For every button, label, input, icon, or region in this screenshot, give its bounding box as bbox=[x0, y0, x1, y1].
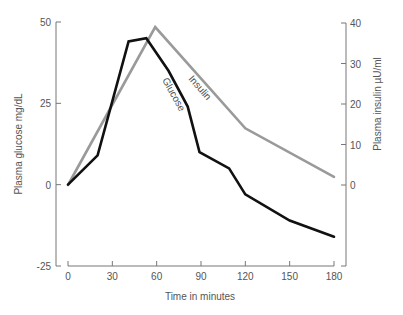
glucose-insulin-chart: 50250-25 403020100 0306090120150180 Time… bbox=[0, 0, 403, 315]
left-tick-label: 0 bbox=[45, 180, 51, 191]
x-tick-label: 120 bbox=[237, 271, 254, 282]
right-tick-label: 0 bbox=[350, 180, 356, 191]
left-axis-label: Plasma glucose mg/dL bbox=[13, 93, 24, 195]
right-ticks: 403020100 bbox=[341, 18, 362, 191]
right-tick-label: 10 bbox=[350, 140, 362, 151]
right-tick-label: 20 bbox=[350, 99, 362, 110]
right-tick-label: 30 bbox=[350, 59, 362, 70]
series bbox=[68, 27, 334, 237]
insulin-line bbox=[68, 27, 334, 185]
glucose-line bbox=[68, 38, 334, 236]
x-axis-label: Time in minutes bbox=[165, 291, 235, 302]
left-tick-label: -25 bbox=[37, 261, 52, 272]
glucose-series-label: Glucose bbox=[160, 76, 188, 114]
x-tick-label: 90 bbox=[195, 271, 207, 282]
left-tick-label: 50 bbox=[40, 17, 52, 28]
right-axis-label: Plasma insulin µU/ml bbox=[372, 57, 383, 151]
left-tick-label: 25 bbox=[40, 98, 52, 109]
chart-svg: 50250-25 403020100 0306090120150180 Time… bbox=[0, 0, 403, 315]
x-tick-label: 0 bbox=[65, 271, 71, 282]
left-ticks: 50250-25 bbox=[37, 17, 61, 272]
right-tick-label: 40 bbox=[350, 18, 362, 29]
x-ticks: 0306090120150180 bbox=[65, 261, 343, 282]
x-tick-label: 60 bbox=[151, 271, 163, 282]
x-tick-label: 150 bbox=[281, 271, 298, 282]
x-tick-label: 180 bbox=[326, 271, 343, 282]
x-tick-label: 30 bbox=[107, 271, 119, 282]
